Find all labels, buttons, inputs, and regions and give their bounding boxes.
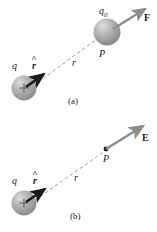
field-vector-arrow — [106, 126, 143, 149]
caption-b: (b) — [70, 212, 81, 221]
distance-dashed-line — [33, 36, 101, 86]
caption-a: (a) — [68, 97, 78, 106]
unit-vector-label-a: ^r — [32, 56, 36, 72]
unit-vector-hat-a: ^ — [31, 55, 36, 64]
distance-dashed-line — [35, 151, 105, 200]
panel-b-electric-field: q ^r r P E (b) — [0, 116, 157, 232]
panel-a-coulomb-force: q ^r r P q0 F (a) — [0, 0, 157, 116]
source-charge-label-a: q — [12, 61, 17, 71]
force-vector-arrow — [113, 9, 145, 29]
unit-vector-label-b: ^r — [33, 171, 37, 187]
point-label-b: P — [103, 154, 109, 164]
distance-label-b: r — [74, 173, 78, 183]
unit-vector-hat-b: ^ — [32, 170, 37, 179]
test-charge-label-a: q0 — [99, 6, 108, 19]
test-charge-subscript: 0 — [104, 11, 108, 19]
field-vector-label: E — [142, 133, 149, 143]
point-label-a: P — [99, 49, 105, 59]
panel-a-graphic — [0, 0, 157, 116]
distance-label-a: r — [72, 58, 76, 68]
source-charge-label-b: q — [12, 176, 17, 186]
force-vector-label: F — [144, 13, 150, 23]
test-charge-sphere — [94, 19, 121, 46]
